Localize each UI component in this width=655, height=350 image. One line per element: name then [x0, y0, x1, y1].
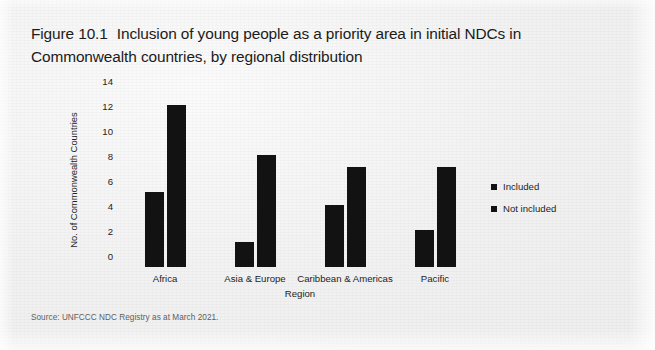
legend-item: Included [491, 179, 556, 194]
legend-item: Not included [491, 201, 556, 216]
legend-label: Not included [503, 203, 556, 214]
plot-area: 02468101214AfricaAsia & EuropeCaribbean … [120, 92, 480, 267]
y-axis-tick: 10 [102, 126, 113, 137]
source-note: Source: UNFCCC NDC Registry as at March … [31, 313, 218, 322]
bar-included [415, 230, 434, 268]
x-axis-tick-label: Asia & Europe [224, 273, 285, 284]
y-axis-tick: 14 [102, 76, 113, 87]
bar-included [145, 192, 164, 267]
y-axis-tick: 6 [108, 176, 113, 187]
bar-group: Asia & Europe [210, 92, 300, 267]
bar-not-included [437, 167, 456, 267]
bar-chart: No. of Commonwealth Countries 0246810121… [0, 0, 655, 350]
y-axis-label: No. of Commonwealth Countries [66, 92, 80, 267]
bar-pair [210, 92, 300, 267]
bar-pair [120, 92, 210, 267]
bar-not-included [257, 155, 276, 268]
bar-pair [300, 92, 390, 267]
x-axis-tick-label: Africa [153, 273, 178, 284]
bar-included [235, 242, 254, 267]
bar-group: Pacific [390, 92, 480, 267]
y-axis-tick: 4 [108, 201, 113, 212]
y-axis-tick: 2 [108, 226, 113, 237]
figure-page: Figure 10.1Inclusion of young people as … [0, 0, 655, 350]
bar-not-included [167, 105, 186, 268]
x-axis-tick-label: Caribbean & Americas [297, 273, 392, 284]
y-axis-label-text: No. of Commonwealth Countries [68, 112, 79, 247]
x-axis-label: Region [120, 288, 480, 299]
bar-group: Africa [120, 92, 210, 267]
x-axis-label-text: Region [285, 288, 315, 299]
y-axis-tick: 0 [108, 251, 113, 262]
legend-swatch-icon [491, 184, 497, 190]
legend-label: Included [503, 181, 539, 192]
y-axis-tick: 12 [102, 101, 113, 112]
bar-included [325, 205, 344, 268]
bar-group: Caribbean & Americas [300, 92, 390, 267]
legend-swatch-icon [491, 206, 497, 212]
bar-pair [390, 92, 480, 267]
chart-legend: IncludedNot included [491, 179, 556, 223]
y-axis-tick: 8 [108, 151, 113, 162]
bar-not-included [347, 167, 366, 267]
x-axis-tick-label: Pacific [421, 273, 449, 284]
